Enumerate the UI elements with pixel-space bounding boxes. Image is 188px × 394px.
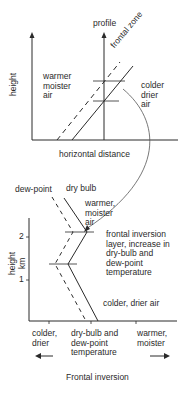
- bottom-height-axis-label: height km: [8, 252, 27, 275]
- x-right-label: warmer, moister: [137, 329, 167, 348]
- cold-side-label: colder drier air: [141, 81, 164, 110]
- top-height-axis-label: height: [9, 73, 19, 96]
- inversion-annotation: frontal inversion layer, increase in dry…: [106, 230, 170, 278]
- dew-point-label: dew-point: [15, 185, 52, 195]
- top-height-axis-arrow-icon: [30, 32, 35, 38]
- top-distance-axis-label: horizontal distance: [59, 150, 130, 160]
- frontal-zone-upper-boundary: [72, 66, 133, 140]
- warm-side-label: warmer moister air: [43, 72, 71, 101]
- profile-arrow-icon: [102, 32, 107, 38]
- y-tick-label-2: 2: [19, 232, 24, 242]
- profile-label: profile: [93, 19, 116, 29]
- lower-air-label: colder, drier air: [103, 299, 159, 309]
- y-tick-label-1: 1: [19, 275, 24, 285]
- upper-air-label: warmer, moister air: [85, 199, 115, 228]
- x-left-label: colder, drier: [32, 329, 57, 348]
- dry-bulb-label: dry bulb: [66, 184, 96, 194]
- x-center-label: dry-bulb and dew-point temperature: [71, 329, 118, 358]
- figure-caption: Frontal inversion: [66, 373, 129, 383]
- dew-point-profile: [52, 197, 86, 321]
